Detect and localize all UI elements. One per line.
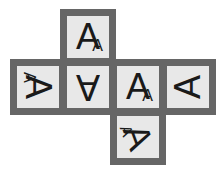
face-center-left: A [60, 59, 116, 115]
letter-a-icon: A A [76, 19, 100, 55]
letter-a-icon: A A [126, 69, 150, 105]
face-center-right: A A [110, 59, 166, 115]
face-letter: A [76, 67, 100, 108]
letter-a-icon: A A [117, 120, 159, 155]
face-subletter: A [21, 72, 37, 83]
letter-a-icon: A [76, 69, 100, 105]
letter-a-icon: A [170, 75, 206, 99]
face-subletter: A [142, 88, 153, 104]
face-letter: A [167, 75, 208, 99]
glyph-center-right: A A [117, 66, 159, 108]
face-subletter: A [92, 38, 103, 54]
glyph-bottom: A A [111, 110, 165, 164]
face-left: A A [10, 59, 66, 115]
letter-a-icon: A A [20, 75, 56, 99]
cube-net: A A A A A A A A [0, 0, 222, 178]
face-top: A A [60, 9, 116, 65]
glyph-left: A A [17, 66, 59, 108]
glyph-right: A [167, 66, 209, 108]
glyph-center-left: A [67, 66, 109, 108]
glyph-top: A A [67, 16, 109, 58]
face-right: A [160, 59, 216, 115]
face-bottom: A A [110, 109, 166, 165]
